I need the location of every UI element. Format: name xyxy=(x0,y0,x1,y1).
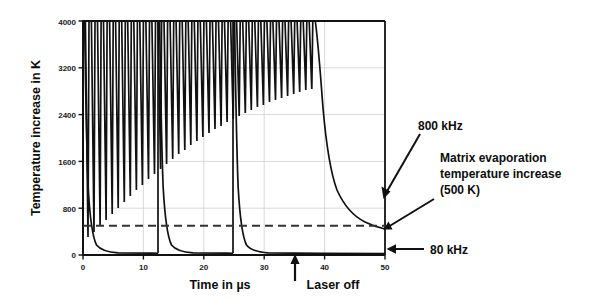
annotation-800khz-label: 800 kHz xyxy=(418,119,463,133)
ytick-label-0: 0 xyxy=(72,251,77,260)
x-axis-title: Time in µs xyxy=(189,278,250,292)
xtick-label-10: 10 xyxy=(139,263,148,272)
annotation-matrix-line3: (500 K) xyxy=(440,183,480,197)
xtick-label-30: 30 xyxy=(260,263,269,272)
annotation-80khz-label: 80 kHz xyxy=(430,243,468,257)
xtick-label-50: 50 xyxy=(381,263,390,272)
xtick-label-40: 40 xyxy=(320,263,329,272)
xtick-label-20: 20 xyxy=(199,263,208,272)
figure-container: 4000 3200 2400 1600 800 0 0 10 20 30 40 … xyxy=(0,0,599,301)
annotation-matrix-line1: Matrix evaporation xyxy=(440,151,547,165)
xtick-label-0: 0 xyxy=(81,263,86,272)
ytick-label-4000: 4000 xyxy=(58,18,76,27)
ytick-label-2400: 2400 xyxy=(58,111,76,120)
temperature-increase-chart: 4000 3200 2400 1600 800 0 0 10 20 30 40 … xyxy=(0,0,599,301)
ytick-label-800: 800 xyxy=(63,205,77,214)
y-axis-title: Temperature increase in K xyxy=(29,60,43,216)
laser-off-label: Laser off xyxy=(307,278,361,292)
annotation-matrix-line2: temperature increase xyxy=(440,167,562,181)
ytick-label-1600: 1600 xyxy=(58,158,76,167)
ytick-label-3200: 3200 xyxy=(58,64,76,73)
